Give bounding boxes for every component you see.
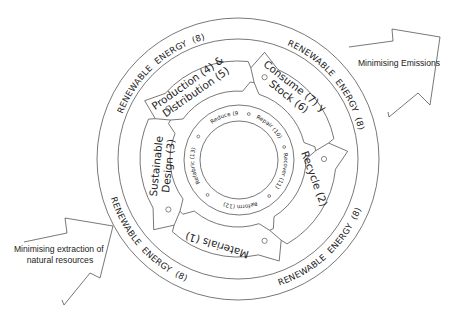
stage-connector-dot <box>321 156 326 161</box>
inner-loop-dot <box>283 146 286 149</box>
circular-economy-diagram: Minimising Emissions Minimising extracti… <box>0 0 454 319</box>
inner-loop-dot <box>247 113 250 116</box>
arrow-minimising-extraction: Minimising extraction of natural resourc… <box>14 218 113 305</box>
emissions-arrow-label: Minimising Emissions <box>358 58 440 68</box>
inner-loop-dot <box>206 194 209 197</box>
stage-connector-dot <box>166 207 171 212</box>
extraction-arrow-label: Minimising extraction of natural resourc… <box>14 244 106 265</box>
inner-loop-dot <box>197 135 200 138</box>
stage-connector-dot <box>262 238 267 243</box>
arrow-minimising-emissions: Minimising Emissions <box>349 29 440 117</box>
emissions-arrow-shape <box>349 29 440 117</box>
stage-connector-dot <box>262 75 267 80</box>
inner-loop-dot <box>268 195 271 198</box>
